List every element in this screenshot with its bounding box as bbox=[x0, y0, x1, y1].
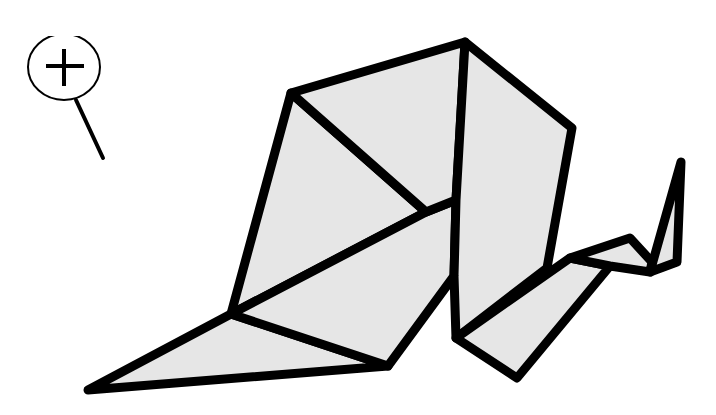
crane-tail-panel bbox=[650, 162, 681, 272]
zoom-in-icon bbox=[26, 36, 106, 164]
origami-figure bbox=[0, 0, 716, 415]
zoom-in-button[interactable]: Zoom in bbox=[26, 36, 106, 164]
